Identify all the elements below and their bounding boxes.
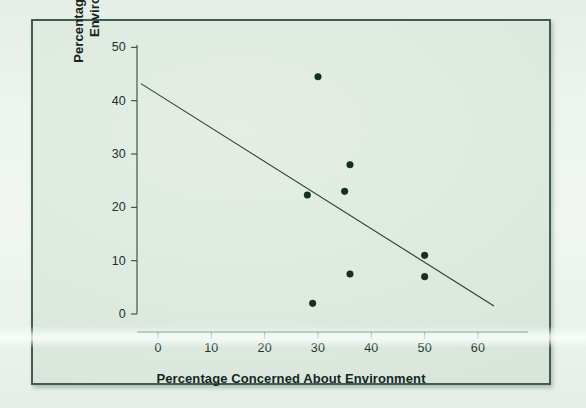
y-axis-ticks xyxy=(131,47,137,314)
y-axis-title-line-1: Percentage Donating Money to xyxy=(71,0,87,81)
data-point xyxy=(315,73,322,80)
data-point xyxy=(341,188,348,195)
y-axis-title: Percentage Donating Money to Environment… xyxy=(71,0,104,81)
x-tick-label-40: 40 xyxy=(364,341,378,355)
y-axis-title-line-2: Environmental Groups xyxy=(87,0,103,81)
data-point-group xyxy=(304,73,428,306)
scanned-page: 01020304050 0102030405060 Percentage Con… xyxy=(0,0,586,408)
data-point xyxy=(347,271,354,278)
figure-background: 01020304050 0102030405060 Percentage Con… xyxy=(33,21,549,383)
x-axis-ticks xyxy=(158,332,478,339)
y-tick-label-50: 50 xyxy=(112,40,126,54)
y-tick-label-10: 10 xyxy=(112,254,126,268)
y-tick-label-40: 40 xyxy=(112,94,126,108)
x-tick-label-10: 10 xyxy=(204,341,218,355)
x-tick-label-0: 0 xyxy=(154,341,161,355)
y-tick-label-30: 30 xyxy=(112,147,126,161)
data-point xyxy=(421,273,428,280)
x-axis-title: Percentage Concerned About Environment xyxy=(33,371,549,386)
y-tick-label-0: 0 xyxy=(119,307,126,321)
data-point xyxy=(421,252,428,259)
x-tick-label-50: 50 xyxy=(417,341,431,355)
figure-frame: 01020304050 0102030405060 Percentage Con… xyxy=(31,19,551,385)
data-point xyxy=(309,300,316,307)
y-tick-label-20: 20 xyxy=(112,200,126,214)
regression-line xyxy=(141,84,494,306)
x-tick-label-20: 20 xyxy=(258,341,272,355)
data-point xyxy=(347,161,354,168)
x-tick-label-60: 60 xyxy=(471,341,485,355)
scatter-plot-canvas xyxy=(33,21,549,383)
data-point xyxy=(304,192,311,199)
x-tick-label-30: 30 xyxy=(311,341,325,355)
